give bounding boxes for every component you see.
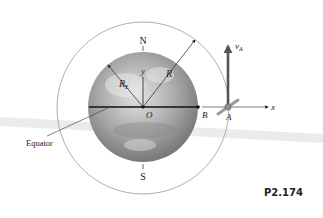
point-a-label: A	[225, 112, 232, 122]
point-b-label: B	[202, 110, 208, 120]
origin-dot	[141, 105, 144, 108]
north-label: N	[139, 35, 146, 46]
equator-label: Equator	[26, 138, 53, 148]
orbit-radius-label: R	[165, 68, 172, 79]
y-axis-label: y	[140, 67, 145, 76]
point-b-dot	[196, 105, 200, 109]
x-axis-label: x	[270, 102, 275, 112]
south-label: S	[140, 171, 146, 182]
orbit-diagram: N S y RE R O B vA A x Equator P2.174	[0, 0, 323, 218]
figure-number: P2.174	[264, 187, 303, 198]
velocity-label: vA	[235, 41, 243, 52]
origin-label: O	[146, 110, 153, 120]
